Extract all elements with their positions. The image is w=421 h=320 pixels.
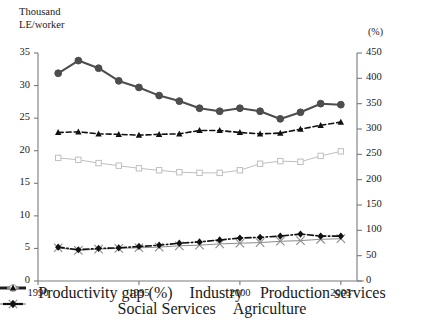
left-tick-label: 15 [8,176,30,187]
chart-container: Thousand LE/worker (%) 05101520253035050… [0,0,421,320]
right-tick-label: 450 [366,46,396,57]
left-tick-label: 25 [8,111,30,122]
legend-label: Social Services [118,300,216,318]
right-tick-label: 300 [366,122,396,133]
legend-key-icon [0,282,26,294]
legend-row: Social ServicesAgriculture [0,298,421,318]
right-tick-label: 150 [366,198,396,209]
series-productivity-gap [55,57,344,122]
left-tick-label: 5 [8,241,30,252]
legend-item-social-services[interactable]: Social Services [115,299,216,318]
legend-label: Agriculture [233,300,307,318]
plot-area [0,0,421,320]
legend-key-icon [0,298,26,310]
right-tick-label: 250 [366,147,396,158]
series-agriculture [55,230,344,253]
left-tick-label: 35 [8,46,30,57]
left-tick-label: 30 [8,79,30,90]
left-tick-label: 20 [8,144,30,155]
right-tick-label: 350 [366,97,396,108]
left-tick-label: 10 [8,209,30,220]
right-tick-label: 50 [366,249,396,260]
series-production-services [55,119,344,138]
right-tick-label: 200 [366,173,396,184]
right-tick-label: 400 [366,71,396,82]
right-tick-label: 100 [366,223,396,234]
series-industry [55,149,343,176]
legend-item-agriculture[interactable]: Agriculture [230,299,307,318]
